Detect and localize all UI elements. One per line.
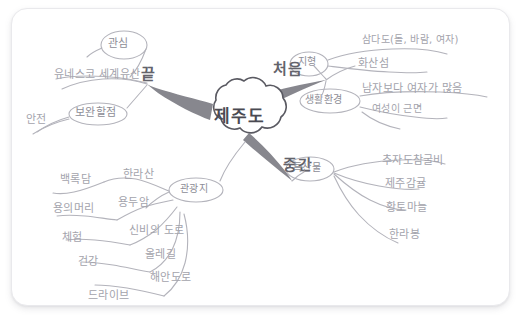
node-label-bowanhaljeom[interactable]: 보완할점 [75,107,116,118]
leaf-label-anjeon[interactable]: 안전 [26,114,47,125]
node-label-teuksanmul[interactable]: 특산물 [293,163,321,173]
leaf-label-deuraibeu[interactable]: 드라이브 [88,290,129,301]
stage-label-end[interactable]: 끝 [141,67,156,82]
leaf-label-hallabong[interactable]: 한라봉 [389,229,420,240]
leaf-label-hallasan[interactable]: 한라산 [123,169,154,180]
node-label-gwangwangji[interactable]: 관광지 [180,184,208,194]
leaf-label-chehum[interactable]: 체험 [62,232,83,243]
leaf-label-sinbiuidoro[interactable]: 신비의 도로 [129,225,184,236]
leaf-label-unesco[interactable]: 유네스코 세계유산 [54,69,140,80]
leaf-label-haeandoro[interactable]: 해안도로 [150,272,191,283]
leaf-label-jejugamgyul[interactable]: 제주감귤 [385,178,426,189]
leaf-label-samdado[interactable]: 삼다도(돌, 바람, 여자) [362,35,459,45]
leaf-label-chujado[interactable]: 추자도참굴비 [382,155,444,166]
node-label-jihyeong[interactable]: 지형 [298,57,317,67]
leaf-label-yongduam[interactable]: 용두암 [118,197,149,208]
leaf-label-yonguimeori[interactable]: 용의머리 [53,203,94,214]
node-label-saenghwalhwangyeong[interactable]: 생활환경 [305,95,342,105]
node-label-gwansim[interactable]: 관심 [108,38,129,49]
leaf-label-ollegil[interactable]: 올레길 [145,249,176,260]
center-node-label[interactable]: 제주도 [214,108,265,125]
leaf-label-geongang[interactable]: 건강 [78,256,99,267]
mindmap-canvas: 제주도 끝 처음 중간 관심 유네스코 세계유산 보완할점 안전 지형 삼다도(… [0,0,527,331]
leaf-label-yeoseong[interactable]: 여성이 근면 [372,104,422,114]
leaf-label-hwasanseom[interactable]: 화산섬 [358,58,389,69]
leaf-label-baekrokdam[interactable]: 백록담 [60,174,91,185]
leaf-label-hwangtomaneul[interactable]: 황토마늘 [386,202,427,213]
leaf-label-namja[interactable]: 남자보다 여자가 많음 [362,83,462,94]
